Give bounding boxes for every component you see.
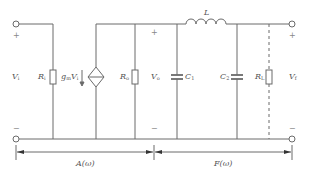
vf-minus-sign: −: [289, 125, 296, 133]
ro-label: Ro: [120, 73, 129, 81]
rl-label: RL: [255, 73, 264, 81]
vi-minus-sign: −: [13, 125, 20, 133]
current-direction-arrow: [80, 82, 84, 86]
vi-plus-sign: +: [13, 32, 20, 40]
inductor: [186, 19, 226, 24]
output-top-terminal: [289, 21, 295, 27]
vf-label: Vf: [289, 73, 297, 81]
vo-label: Vo: [151, 73, 160, 81]
ri-label: Ri: [38, 73, 46, 81]
rl-resistor: [266, 70, 272, 84]
input-top-terminal: [13, 21, 19, 27]
ri-resistor: [50, 70, 56, 84]
input-bottom-terminal: [13, 136, 19, 142]
gm-vi-label: gmVi: [61, 73, 78, 81]
ro-resistor: [132, 70, 138, 84]
output-bottom-terminal: [289, 136, 295, 142]
amplifier-transfer-label: A(ω): [76, 160, 95, 168]
inductor-label: L: [204, 9, 209, 17]
circuit-schematic: [0, 0, 309, 175]
c2-label: C2: [220, 73, 229, 81]
vo-minus-sign: −: [151, 125, 158, 133]
vf-plus-sign: +: [289, 32, 296, 40]
vi-label: Vi: [12, 73, 19, 81]
feedback-transfer-label: F(ω): [214, 160, 232, 168]
vo-plus-sign: +: [151, 29, 158, 37]
c1-label: C1: [185, 73, 194, 81]
